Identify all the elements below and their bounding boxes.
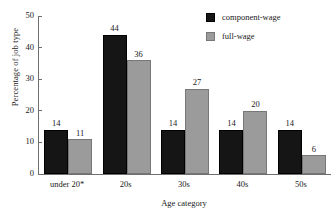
bar-value: 36 (134, 49, 143, 59)
bar-component-wage (44, 130, 68, 174)
legend-item-component-wage: component-wage (206, 12, 281, 22)
bar-chart: Percentage of job type 0 10 20 30 40 50 (0, 0, 335, 217)
legend-item-full-wage: full-wage (206, 31, 281, 41)
x-tick-label: 20s (96, 179, 154, 190)
legend-label: component-wage (222, 12, 281, 22)
bar-value: 14 (286, 118, 295, 128)
bar-wrap: 14 (44, 16, 68, 174)
bar-full-wage (68, 139, 92, 174)
bar-full-wage (127, 60, 151, 174)
bar-wrap: 11 (68, 16, 92, 174)
y-axis-title: Percentage of job type (10, 7, 20, 127)
x-tick-label: 40s (213, 179, 271, 190)
bar-value: 44 (110, 23, 119, 33)
bar-groups: 14 11 44 36 14 (39, 16, 331, 174)
chart-legend: component-wage full-wage (206, 12, 281, 50)
bar-value: 14 (169, 118, 178, 128)
bar-wrap: 36 (127, 16, 151, 174)
bar-full-wage (302, 155, 326, 174)
bar-value: 27 (193, 77, 202, 87)
legend-swatch-icon (206, 13, 215, 22)
bar-component-wage (103, 35, 127, 174)
legend-swatch-icon (206, 32, 215, 41)
bar-component-wage (161, 130, 185, 174)
x-axis-labels: under 20* 20s 30s 40s 50s (38, 179, 330, 190)
x-axis-title: Age category (38, 198, 330, 208)
y-tick-label: 20 (26, 105, 35, 116)
x-tick-label: under 20* (38, 179, 96, 190)
legend-label: full-wage (222, 31, 255, 41)
plot-area: 0 10 20 30 40 50 14 (38, 16, 331, 175)
x-tick-label: 50s (272, 179, 330, 190)
x-tick-label: 30s (155, 179, 213, 190)
bar-value: 6 (312, 144, 316, 154)
bar-wrap: 14 (278, 16, 302, 174)
y-tick-label: 0 (30, 168, 34, 179)
y-tick-label: 50 (26, 10, 35, 21)
bar-component-wage (219, 130, 243, 174)
bar-group: 14 6 (273, 16, 331, 174)
bar-value: 11 (76, 128, 84, 138)
bar-wrap: 44 (103, 16, 127, 174)
bar-wrap: 14 (161, 16, 185, 174)
bar-value: 14 (227, 118, 236, 128)
bar-value: 14 (52, 118, 61, 128)
bar-component-wage (278, 130, 302, 174)
y-tick-label: 40 (26, 42, 35, 53)
bar-group: 14 11 (39, 16, 97, 174)
bar-value: 20 (251, 99, 260, 109)
bar-group: 44 36 (97, 16, 155, 174)
bar-full-wage (243, 111, 267, 174)
y-tick-label: 10 (26, 136, 35, 147)
bar-full-wage (185, 89, 209, 174)
bar-wrap: 6 (302, 16, 326, 174)
y-tick-label: 30 (26, 73, 35, 84)
